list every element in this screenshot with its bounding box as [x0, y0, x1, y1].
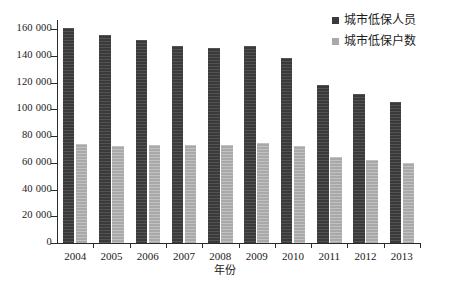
- bar-series-1: [366, 160, 378, 243]
- legend-label-series-1: 城市低保户数: [344, 34, 416, 49]
- x-tick: [311, 243, 312, 248]
- chart-legend: 城市低保人员 城市低保户数: [332, 12, 416, 54]
- x-tick: [202, 243, 203, 248]
- bar-series-1: [294, 146, 306, 243]
- bar-series-0: [136, 40, 148, 243]
- x-tick-label: 2008: [209, 249, 231, 263]
- bar-series-0: [281, 58, 293, 243]
- bar-chart: 020 00040 00060 00080 000100 000120 0001…: [0, 0, 450, 292]
- x-tick-label: 2006: [137, 249, 159, 263]
- x-tick-label: 2004: [64, 249, 86, 263]
- y-tick-label: 140 000: [0, 50, 52, 60]
- bar-series-1: [76, 144, 88, 243]
- bar-series-0: [172, 46, 184, 243]
- x-axis-tick-labels: 2004200520062007200820092010201120122013: [57, 249, 420, 265]
- x-tick: [93, 243, 94, 248]
- x-tick: [420, 243, 421, 248]
- bar-series-0: [353, 94, 365, 243]
- bar-series-0: [99, 35, 111, 243]
- bar-series-0: [244, 46, 256, 243]
- y-tick-label: 20 000: [0, 210, 52, 220]
- x-tick-label: 2013: [391, 249, 413, 263]
- bar-series-1: [185, 145, 197, 243]
- bar-series-1: [330, 157, 342, 243]
- x-axis-title: 年份: [0, 264, 450, 278]
- x-tick-label: 2011: [318, 249, 340, 263]
- y-tick-label: 80 000: [0, 130, 52, 140]
- y-tick-label: 40 000: [0, 184, 52, 194]
- x-tick: [347, 243, 348, 248]
- x-tick-label: 2010: [282, 249, 304, 263]
- legend-swatch-icon-series-1: [332, 38, 339, 45]
- x-tick-label: 2007: [173, 249, 195, 263]
- y-tick-label: 160 000: [0, 23, 52, 33]
- y-tick-label: 120 000: [0, 77, 52, 87]
- x-tick-label: 2009: [246, 249, 268, 263]
- bar-series-1: [403, 163, 415, 243]
- x-tick: [130, 243, 131, 248]
- bar-series-1: [149, 145, 161, 243]
- bar-group: [99, 20, 124, 243]
- x-tick: [239, 243, 240, 248]
- x-tick-label: 2005: [100, 249, 122, 263]
- bar-series-0: [317, 85, 329, 243]
- bar-group: [208, 20, 233, 243]
- bar-group: [136, 20, 161, 243]
- bar-group: [172, 20, 197, 243]
- bar-series-1: [112, 146, 124, 243]
- x-tick-label: 2012: [355, 249, 377, 263]
- y-tick-label: 100 000: [0, 103, 52, 113]
- bar-group: [63, 20, 88, 243]
- legend-item-0: 城市低保人员: [332, 12, 416, 29]
- legend-swatch-icon-series-0: [332, 17, 339, 24]
- y-tick-label: 0: [0, 237, 52, 247]
- x-tick: [384, 243, 385, 248]
- x-tick: [166, 243, 167, 248]
- bar-group: [244, 20, 269, 243]
- bar-group: [281, 20, 306, 243]
- bar-series-0: [390, 102, 402, 243]
- legend-item-1: 城市低保户数: [332, 33, 416, 50]
- legend-label-series-0: 城市低保人员: [344, 13, 416, 28]
- bar-series-1: [221, 145, 233, 243]
- bar-series-0: [63, 28, 75, 243]
- bar-series-1: [257, 143, 269, 243]
- y-tick-label: 60 000: [0, 157, 52, 167]
- bar-series-0: [208, 48, 220, 243]
- x-tick: [275, 243, 276, 248]
